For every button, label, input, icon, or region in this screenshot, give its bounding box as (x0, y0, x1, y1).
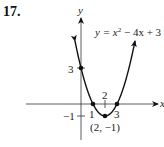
y-tick-label-3: 3 (68, 63, 74, 75)
equation-suffix: − 4x + 3 (121, 26, 161, 38)
y-axis-label: y (77, 4, 83, 16)
vertex-label: (2, −1) (90, 121, 120, 134)
point-y-intercept (79, 66, 84, 71)
point-vertex (103, 114, 108, 119)
x-tick-label-2: 2 (102, 89, 108, 101)
equation-label: y = x2 − 4x + 3 (94, 26, 162, 38)
point-root-1 (91, 102, 96, 107)
x-axis-label: x (159, 97, 164, 109)
equation-prefix: y = x (94, 26, 118, 38)
y-tick-label-neg1: −1 (63, 110, 75, 122)
parabola-graph: y x y = x2 − 4x + 3 3 −1 1 2 3 (2, −1) (0, 0, 164, 147)
x-tick-label-1: 1 (89, 108, 95, 120)
x-tick-label-3: 3 (114, 108, 120, 120)
point-root-3 (115, 102, 120, 107)
